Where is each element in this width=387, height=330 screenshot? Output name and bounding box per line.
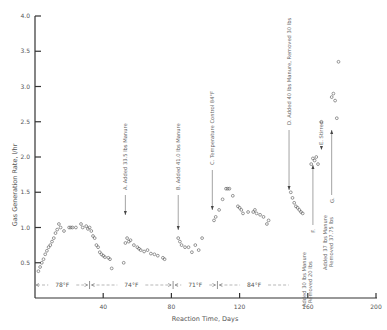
data-point <box>240 209 243 212</box>
y-tick-label: 4.0 <box>20 12 30 19</box>
data-point <box>213 219 216 222</box>
annotation-d: D. Added 40 lbs Manure, Removed 30 lbs <box>286 17 292 190</box>
data-point <box>242 212 245 215</box>
data-point <box>214 216 217 219</box>
data-point <box>146 249 149 252</box>
data-point <box>334 99 337 102</box>
data-point <box>150 252 153 255</box>
data-point <box>58 223 61 226</box>
data-point <box>262 216 265 219</box>
data-point <box>63 230 66 233</box>
data-point <box>85 225 88 228</box>
data-point <box>184 246 187 249</box>
data-point <box>56 228 59 231</box>
data-point <box>93 237 96 240</box>
temperature-label: 84°F <box>247 281 262 288</box>
data-point <box>266 223 269 226</box>
data-point <box>46 249 49 252</box>
data-point <box>124 242 127 245</box>
data-point <box>122 261 125 264</box>
x-tick-label: 120 <box>234 303 246 310</box>
svg-text:Removed 37.75 lbs: Removed 37.75 lbs <box>328 217 334 267</box>
annotation-c: C. Temperature Control 84°F <box>209 91 216 210</box>
annotation-g: G.Added 37 lbs ManureRemoved 37.75 lbs <box>322 130 335 270</box>
data-point <box>197 249 200 252</box>
data-point <box>267 219 270 222</box>
data-point <box>177 237 180 240</box>
svg-text:F.: F. <box>310 229 316 233</box>
x-tick-label: 40 <box>99 303 107 310</box>
y-tick-label: 1.5 <box>20 188 30 195</box>
data-point <box>335 117 338 120</box>
data-point <box>54 232 57 235</box>
x-tick-label: 80 <box>168 303 176 310</box>
temperature-label: 71°F <box>188 281 203 288</box>
data-point <box>291 197 294 200</box>
y-tick-label: 1.0 <box>20 224 30 231</box>
data-point <box>315 156 318 159</box>
data-point <box>201 237 204 240</box>
data-point <box>337 60 340 63</box>
temperature-ranges: 78°F74°F71°F84°F <box>36 281 289 289</box>
data-point <box>317 163 320 166</box>
y-axis-title: Gas Generation Rate, l/hr <box>11 143 19 226</box>
data-point <box>143 250 146 253</box>
data-point <box>187 246 190 249</box>
data-point <box>37 270 40 273</box>
data-point <box>110 267 113 270</box>
data-point <box>293 201 296 204</box>
data-point <box>194 244 197 247</box>
data-point <box>133 244 136 247</box>
data-point <box>90 230 93 233</box>
data-point <box>289 191 292 194</box>
data-point <box>218 209 221 212</box>
svg-text:C. Temperature Control 84°F: C. Temperature Control 84°F <box>209 91 216 165</box>
data-point <box>75 226 78 229</box>
annotation-a: A. Added 33.5 lbs Manure <box>122 123 128 215</box>
data-point <box>330 96 333 99</box>
data-point <box>156 254 159 257</box>
temperature-label: 78°F <box>55 281 70 288</box>
data-point <box>254 209 257 212</box>
temperature-label: 74°F <box>124 281 139 288</box>
data-point <box>44 253 47 256</box>
data-point <box>247 211 250 214</box>
svg-text:D. Added 40 lbs Manure, Remov: D. Added 40 lbs Manure, Removed 30 lbs <box>286 17 292 125</box>
svg-text:E. Stirred: E. Stirred <box>318 121 324 145</box>
data-point <box>59 226 62 229</box>
svg-text:Removed 20 lbs: Removed 20 lbs <box>307 261 313 303</box>
data-point <box>179 240 182 243</box>
annotations: A. Added 33.5 lbs ManureB. Added 41.0 lb… <box>122 17 334 307</box>
data-point <box>310 163 313 166</box>
annotation-f: F.Added 30 lbs ManureRemoved 20 lbs <box>301 165 316 307</box>
data-point <box>39 266 42 269</box>
annotation-e: E. Stirred <box>318 121 324 150</box>
y-tick-label: 0.5 <box>20 259 30 266</box>
svg-text:A. Added 33.5 lbs Manure: A. Added 33.5 lbs Manure <box>122 123 128 190</box>
data-point <box>51 240 54 243</box>
x-tick-label: 200 <box>370 303 382 310</box>
data-point <box>42 258 45 261</box>
svg-text:B. Added 41.0 lbs Manure: B. Added 41.0 lbs Manure <box>175 123 181 190</box>
data-point <box>97 246 100 249</box>
data-point <box>255 212 258 215</box>
data-point <box>49 244 52 247</box>
gas-generation-chart: 0.51.01.52.02.53.03.54.04080120160200 78… <box>0 0 387 330</box>
data-point <box>231 194 234 197</box>
data-point <box>126 237 129 240</box>
data-point <box>81 226 84 229</box>
y-tick-label: 3.0 <box>20 83 30 90</box>
x-axis-title: Reaction Time, Days <box>172 315 239 323</box>
data-point <box>332 92 335 95</box>
data-point <box>180 244 183 247</box>
y-tick-label: 2.5 <box>20 118 30 125</box>
data-point <box>221 198 224 201</box>
svg-text:G.: G. <box>329 197 335 203</box>
y-tick-label: 2.0 <box>20 153 30 160</box>
data-point <box>52 237 55 240</box>
data-point <box>259 213 262 216</box>
data-point <box>191 251 194 254</box>
data-point <box>313 159 316 162</box>
data-point <box>80 223 83 226</box>
data-points <box>37 60 340 272</box>
